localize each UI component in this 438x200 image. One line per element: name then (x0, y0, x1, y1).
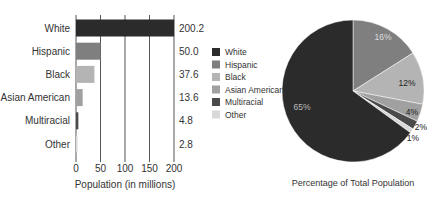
legend-swatch (212, 73, 220, 81)
legend-swatch (212, 61, 220, 69)
x-tick-label: 0 (73, 163, 79, 174)
legend-swatch (212, 111, 220, 119)
legend-label: Asian American (225, 85, 284, 95)
pie-title: Percentage of Total Population (292, 178, 414, 188)
bar (76, 43, 101, 60)
value-label: 37.6 (179, 69, 199, 80)
bar-chart: 050100150200White200.2Hispanic50.0Black3… (1, 15, 205, 190)
pie-label: 16% (374, 32, 391, 42)
x-tick-label: 50 (95, 163, 107, 174)
pie-label: 12% (398, 78, 415, 88)
x-tick-label: 100 (117, 163, 134, 174)
bar (76, 136, 78, 153)
bar (76, 89, 83, 106)
x-tick-label: 200 (166, 163, 183, 174)
legend-swatch (212, 86, 220, 94)
value-label: 13.6 (179, 92, 199, 103)
bar (76, 112, 78, 129)
pie-label: 2% (415, 122, 428, 132)
pie-label: 1% (407, 133, 420, 143)
legend-label: Black (225, 72, 247, 82)
legend-label: White (225, 47, 247, 57)
legend-label: Other (225, 110, 246, 120)
value-label: 50.0 (179, 46, 199, 57)
category-label: Multiracial (25, 115, 70, 126)
legend-swatch (212, 98, 220, 106)
bar (76, 20, 174, 37)
pie-label: 4% (406, 107, 419, 117)
legend-label: Multiracial (225, 97, 263, 107)
category-label: Hispanic (32, 46, 70, 57)
legend-label: Hispanic (225, 60, 258, 70)
value-label: 200.2 (179, 23, 204, 34)
bar (76, 66, 94, 83)
x-axis-title: Population (in millions) (75, 179, 176, 190)
category-label: Asian American (1, 92, 70, 103)
population-chart: 050100150200White200.2Hispanic50.0Black3… (0, 0, 438, 200)
category-label: White (44, 23, 70, 34)
category-label: Other (45, 139, 71, 150)
pie-label: 65% (293, 102, 310, 112)
legend-swatch (212, 48, 220, 56)
value-label: 2.8 (179, 139, 193, 150)
category-label: Black (46, 69, 71, 80)
value-label: 4.8 (179, 115, 193, 126)
legend: WhiteHispanicBlackAsian AmericanMultirac… (212, 47, 284, 120)
pie-chart: 65%16%12%4%2%1%Percentage of Total Popul… (282, 20, 428, 188)
x-tick-label: 150 (141, 163, 158, 174)
